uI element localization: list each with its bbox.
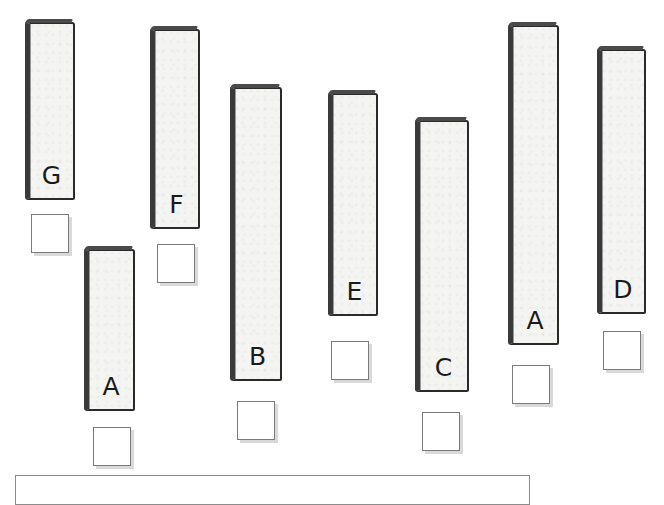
answer-box-a-6[interactable] bbox=[512, 365, 550, 404]
stick-e: E bbox=[328, 93, 378, 316]
answer-box-a-1[interactable] bbox=[93, 427, 131, 466]
stick-label: B bbox=[235, 344, 280, 369]
stick-a2: A bbox=[508, 25, 559, 345]
stick-label: E bbox=[333, 279, 376, 304]
answer-panel bbox=[15, 475, 530, 505]
stick-label: A bbox=[89, 374, 133, 399]
stick-label: A bbox=[513, 308, 557, 333]
answer-box-d-7[interactable] bbox=[603, 331, 641, 370]
stick-a1: A bbox=[84, 249, 135, 411]
stick-label: G bbox=[30, 163, 73, 188]
answer-box-b-3[interactable] bbox=[237, 401, 275, 440]
answer-box-g-0[interactable] bbox=[31, 214, 69, 253]
answer-box-f-2[interactable] bbox=[157, 244, 195, 283]
answer-box-e-4[interactable] bbox=[331, 341, 369, 380]
stick-b: B bbox=[230, 87, 282, 381]
stick-d: D bbox=[597, 49, 646, 314]
stick-label: C bbox=[420, 355, 467, 380]
answer-box-c-5[interactable] bbox=[422, 412, 460, 451]
stick-c: C bbox=[415, 120, 469, 392]
stick-f: F bbox=[150, 29, 200, 229]
stick-g: G bbox=[25, 22, 75, 200]
stick-label: F bbox=[155, 192, 198, 217]
stick-label: D bbox=[602, 277, 644, 302]
